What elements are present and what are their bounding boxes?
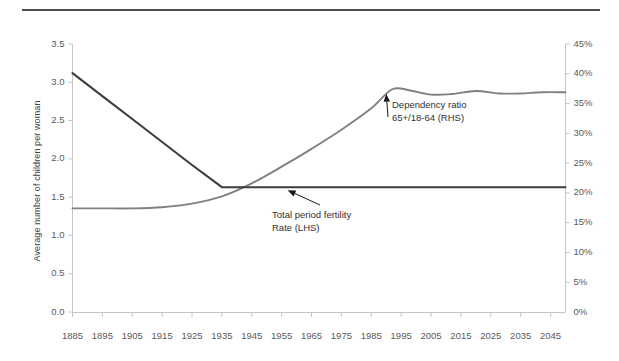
y-axis-left-tick-label: 1.0 bbox=[29, 229, 65, 240]
y-axis-right-tick-label: 20% bbox=[574, 186, 614, 197]
y-axis-right-tick-label: 40% bbox=[574, 67, 614, 78]
right-axis-ticks bbox=[566, 44, 570, 282]
series-line-dependency-ratio bbox=[73, 88, 566, 208]
y-axis-left-tick-label: 3.5 bbox=[29, 38, 65, 49]
y-axis-left-tick-label: 0.5 bbox=[29, 267, 65, 278]
annotation-dependency: Dependency ratio 65+/18-64 (RHS) bbox=[392, 99, 466, 124]
annotation-fertility-line2: Rate (LHS) bbox=[272, 222, 351, 235]
annotation-dependency-line1: Dependency ratio bbox=[392, 99, 466, 112]
annotation-fertility-arrow-line bbox=[295, 194, 320, 205]
annotation-dependency-line2: 65+/18-64 (RHS) bbox=[392, 112, 466, 125]
y-axis-right-tick-label: 35% bbox=[574, 97, 614, 108]
y-axis-right-tick-label: 15% bbox=[574, 216, 614, 227]
left-axis-ticks bbox=[69, 44, 73, 312]
plot-canvas bbox=[0, 0, 619, 361]
annotation-dependency-arrow-line bbox=[387, 102, 388, 117]
y-axis-right-tick-label: 10% bbox=[574, 246, 614, 257]
annotation-fertility-arrow-head bbox=[288, 190, 297, 196]
y-axis-left-tick-label: 0.0 bbox=[29, 306, 65, 317]
y-axis-left-tick-label: 2.5 bbox=[29, 114, 65, 125]
annotation-fertility: Total period fertility Rate (LHS) bbox=[272, 209, 351, 234]
y-axis-right-tick-label: 45% bbox=[574, 38, 614, 49]
y-axis-right-tick-label: 25% bbox=[574, 157, 614, 168]
y-axis-right-tick-label: 30% bbox=[574, 127, 614, 138]
annotation-arrows bbox=[288, 94, 390, 205]
y-axis-left-tick-label: 1.5 bbox=[29, 191, 65, 202]
y-axis-right-tick-label: 0% bbox=[574, 306, 614, 317]
annotation-fertility-line1: Total period fertility bbox=[272, 209, 351, 222]
x-axis-tick-label: 2045 bbox=[531, 330, 571, 341]
y-axis-left-tick-label: 2.0 bbox=[29, 152, 65, 163]
y-axis-right-tick-label: 5% bbox=[574, 276, 614, 287]
y-axis-left-tick-label: 3.0 bbox=[29, 76, 65, 87]
chart-figure: Average number of children per woman Dep… bbox=[0, 0, 619, 361]
series-line-fertility-rate bbox=[73, 73, 566, 187]
axis-lines bbox=[73, 44, 566, 313]
